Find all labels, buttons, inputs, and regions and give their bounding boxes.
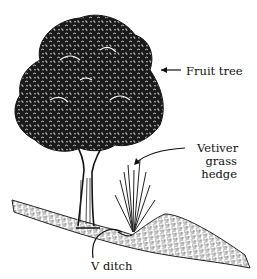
label-fruit-tree: Fruit tree [186, 65, 243, 78]
tree-canopy [15, 15, 163, 151]
callout-fruit-tree [161, 67, 181, 73]
label-vetiver-line-3: hedge [197, 168, 237, 181]
tree-trunk [74, 140, 106, 228]
label-vetiver-grass-hedge: Vetiver grass hedge [197, 142, 237, 181]
callout-vetiver [134, 148, 185, 165]
label-v-ditch: V ditch [91, 260, 132, 273]
vetiver-grass [115, 160, 155, 232]
illustration [0, 0, 257, 279]
